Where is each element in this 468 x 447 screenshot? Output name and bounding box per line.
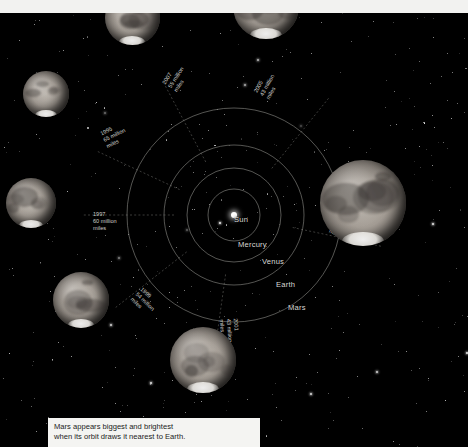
surface-marking <box>120 11 149 28</box>
label-mercury: Mercury <box>238 240 267 249</box>
polar-ice-cap <box>68 319 95 328</box>
surface-marking <box>7 203 19 214</box>
mars-disc-1997 <box>6 178 56 228</box>
sight-line-2007 <box>163 81 206 162</box>
polar-ice-cap <box>19 220 43 228</box>
polar-ice-cap <box>250 28 282 39</box>
polar-ice-cap <box>187 382 219 393</box>
callout-unit: miles <box>93 225 117 232</box>
mars-disc-1999 <box>53 272 109 328</box>
polar-ice-cap <box>119 36 145 45</box>
polar-ice-cap <box>35 110 57 117</box>
mars-disc-2003 <box>320 160 406 246</box>
label-sun: Sun <box>234 215 248 224</box>
surface-marking <box>36 81 49 87</box>
surface-marking <box>48 87 59 95</box>
top-white-bar <box>0 0 468 13</box>
caption-line-2: when its orbit draws it nearest to Earth… <box>54 432 254 442</box>
mars-orbit-diagram: SunMercuryVenusEarthMars 199565 millionm… <box>0 0 468 447</box>
caption-box: Mars appears biggest and brightest when … <box>48 418 260 447</box>
label-venus: Venus <box>262 257 284 266</box>
surface-marking <box>25 89 41 97</box>
label-mars: Mars <box>288 303 306 312</box>
surface-marking <box>82 280 92 285</box>
mars-disc-2001 <box>170 327 236 393</box>
sight-line-1995 <box>96 151 179 190</box>
sight-line-2005 <box>272 97 330 168</box>
callout-1997: 199760 millionmiles <box>93 211 117 233</box>
surface-marking <box>322 183 369 215</box>
polar-ice-cap <box>342 232 383 246</box>
mars-disc-1995 <box>23 71 69 117</box>
caption-line-1: Mars appears biggest and brightest <box>54 422 254 432</box>
label-earth: Earth <box>276 280 295 289</box>
surface-marking <box>198 352 224 372</box>
